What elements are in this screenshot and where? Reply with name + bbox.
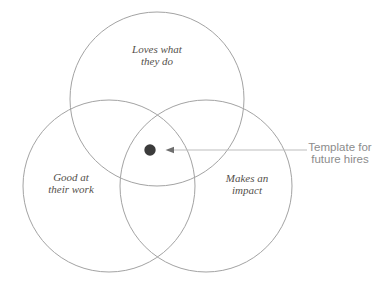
annotation-line: future hires [308, 153, 371, 165]
venn-diagram-canvas: Loves what they do Good at their work Ma… [0, 0, 389, 285]
circle-loves-what-they-do [70, 12, 244, 186]
label-loves-what-they-do: Loves what they do [132, 44, 182, 67]
label-line: their work [48, 184, 94, 196]
center-intersection-dot [144, 144, 155, 155]
label-good-at-their-work: Good at their work [48, 172, 94, 195]
label-line: Good at [48, 172, 94, 184]
label-line: Makes an [226, 173, 268, 185]
label-line: they do [132, 56, 182, 68]
label-line: Loves what [132, 44, 182, 56]
annotation-arrow-head [166, 147, 175, 153]
annotation-template-for-future-hires: Template for future hires [308, 141, 371, 165]
label-makes-an-impact: Makes an impact [226, 173, 268, 196]
annotation-line: Template for [308, 141, 371, 153]
label-line: impact [226, 185, 268, 197]
